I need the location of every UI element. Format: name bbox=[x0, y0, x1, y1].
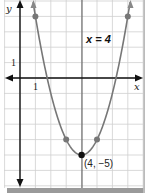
axis-of-symmetry-label: x = 4 bbox=[85, 33, 111, 45]
plot-background bbox=[4, 0, 143, 188]
parabola-graph: y x 1 1 x = 4 (4, −5) bbox=[0, 0, 145, 196]
data-point bbox=[63, 137, 69, 143]
y-axis-label: y bbox=[5, 3, 12, 14]
x-axis-label: x bbox=[134, 81, 140, 92]
frame-shadow bbox=[7, 188, 145, 193]
y-tick-label: 1 bbox=[11, 57, 16, 68]
data-point bbox=[125, 13, 131, 19]
data-point bbox=[32, 13, 38, 19]
vertex-label: (4, −5) bbox=[84, 158, 113, 169]
data-point bbox=[94, 137, 100, 143]
x-tick-label: 1 bbox=[33, 81, 38, 92]
